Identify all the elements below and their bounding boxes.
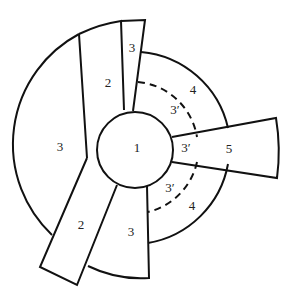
label-top-thin-strip: 3 [129,40,136,55]
label-upper-right-inner: 3′ [170,102,180,117]
label-bottom-region: 3 [128,224,135,239]
label-lower-right-inner: 3′ [165,180,175,195]
label-center: 1 [134,140,141,155]
label-right-inner: 3′ [181,140,191,155]
top-left-strip [79,21,124,158]
label-left-region: 3 [57,139,64,154]
label-right-strip: 5 [226,141,233,156]
left-region-outer-arc [13,34,79,235]
top-thin-strip [121,20,145,111]
label-lower-right-outer: 4 [189,198,196,213]
label-top-left-strip: 2 [105,75,112,90]
partition-diagram: 1 2 3 3 2 3 4 3′ 3′ 5 3′ 4 [0,0,292,303]
label-bottom-left-strip: 2 [78,217,85,232]
label-upper-right-outer: 4 [190,82,197,97]
